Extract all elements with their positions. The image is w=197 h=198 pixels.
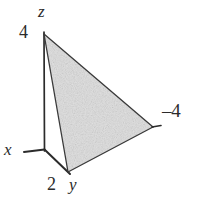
x-intercept-tick [152, 126, 161, 128]
shaded-triangle-texture [44, 34, 153, 172]
z-axis-line [44, 32, 45, 151]
y-intercept-tick-label: 2 [47, 175, 56, 193]
z-intercept-tick-label: 4 [19, 23, 28, 41]
z-axis-label: z [38, 3, 45, 20]
x-axis-label: x [4, 141, 12, 158]
diagram-canvas [0, 0, 197, 198]
x-axis-line [24, 150, 45, 153]
x-intercept-tick-label: –4 [162, 101, 180, 120]
y-axis-label: y [69, 176, 77, 193]
coordinate-diagram: z x y 4 2 –4 [0, 0, 197, 198]
